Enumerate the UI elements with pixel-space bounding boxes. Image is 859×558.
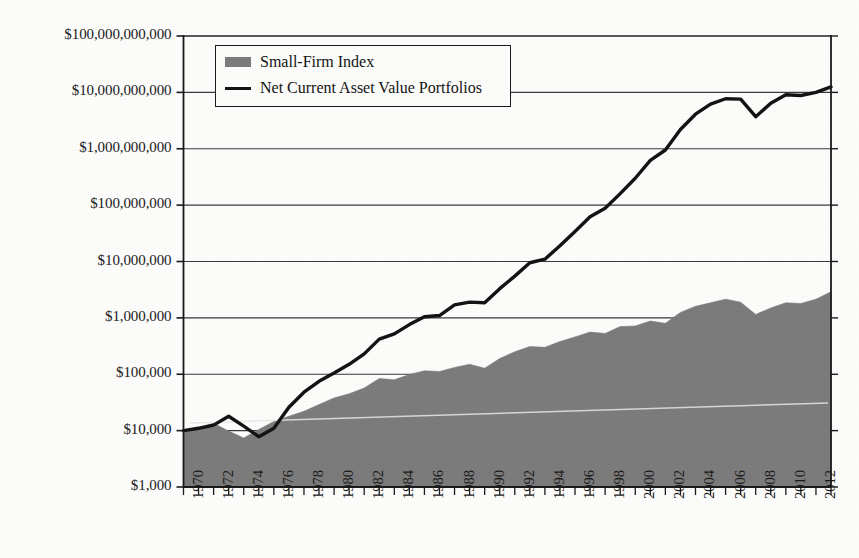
x-axis-tick-label: 1986 [430,470,447,499]
y-axis-tick-label: $1,000,000 [0,308,172,325]
y-axis-tick-label: $100,000,000 [0,195,172,212]
y-axis-tick-label: $10,000,000 [0,252,172,269]
x-axis-tick-label: 1998 [611,470,628,499]
x-axis-tick-label: 2012 [822,470,839,499]
x-axis-tick-label: 1976 [280,470,297,499]
y-axis-tick-label: $100,000 [0,364,172,381]
legend-label-net-current-asset-value: Net Current Asset Value Portfolios [260,79,482,97]
legend-item-net-current-asset-value: Net Current Asset Value Portfolios [225,76,482,100]
x-axis-tick-label: 1996 [581,470,598,499]
y-axis-ticks [177,36,184,487]
chart-legend: Small-Firm Index Net Current Asset Value… [215,45,511,107]
x-axis-tick-label: 2010 [792,470,809,499]
x-axis-tick-label: 1982 [370,470,387,499]
x-axis-tick-label: 2004 [701,470,718,499]
x-axis-tick-label: 1980 [340,470,357,499]
x-axis-tick-label: 2000 [641,470,658,499]
x-axis-tick-label: 1970 [190,470,207,499]
legend-item-small-firm-index: Small-Firm Index [225,50,374,74]
x-axis-tick-label: 2002 [671,470,688,499]
y-axis-tick-label: $10,000 [0,421,172,438]
x-axis-tick-label: 1974 [250,470,267,499]
x-axis-tick-label: 2008 [762,470,779,499]
x-axis-tick-label: 1978 [310,470,327,499]
line-swatch-icon [225,87,251,90]
x-axis-tick-label: 1994 [551,470,568,499]
y-axis-tick-label: $10,000,000,000 [0,82,172,99]
x-axis-tick-label: 1988 [461,470,478,499]
chart-figure: $100,000,000,000$10,000,000,000$1,000,00… [0,0,859,558]
x-axis-tick-label: 1992 [521,470,538,499]
x-axis-tick-label: 1972 [220,470,237,499]
y-axis-tick-label: $100,000,000,000 [0,26,172,43]
legend-label-small-firm-index: Small-Firm Index [260,53,374,71]
area-swatch-icon [225,57,251,67]
x-axis-tick-label: 2006 [732,470,749,499]
x-axis-tick-label: 1984 [400,470,417,499]
area-series-small-firm-index [184,292,832,487]
y-axis-tick-label: $1,000,000,000 [0,139,172,156]
y-axis-tick-label: $1,000 [0,477,172,494]
x-axis-tick-label: 1990 [491,470,508,499]
